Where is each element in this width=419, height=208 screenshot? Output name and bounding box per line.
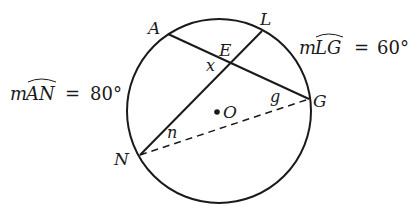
- arc-an-value: 80°: [90, 83, 122, 104]
- point-label-l: L: [259, 9, 271, 29]
- circle-diagram: A L E G N O x g n m AN = 80° m LG = 60°: [0, 0, 419, 208]
- angle-label-n: n: [167, 123, 177, 142]
- arc-measure-an: m AN = 80°: [10, 79, 122, 104]
- arc-an-name: AN: [24, 83, 56, 104]
- point-label-o: O: [223, 102, 237, 122]
- point-label-e: E: [218, 40, 232, 60]
- point-label-g: G: [313, 91, 327, 111]
- center-point-o: [214, 109, 220, 115]
- arc-lg-value: 60°: [377, 37, 409, 58]
- arc-an-equals: =: [65, 83, 80, 104]
- chord-ag: [168, 34, 309, 99]
- angle-label-x: x: [206, 56, 215, 75]
- arc-lg-name: LG: [314, 37, 341, 58]
- point-label-n: N: [113, 149, 130, 169]
- arc-measure-lg: m LG = 60°: [299, 34, 409, 58]
- angle-label-g: g: [270, 87, 280, 106]
- point-label-a: A: [146, 18, 160, 38]
- arc-an-overline-icon: [28, 79, 56, 82]
- arc-an-prefix: m: [10, 83, 27, 104]
- arc-lg-equals: =: [354, 37, 369, 58]
- arc-lg-prefix: m: [299, 37, 316, 58]
